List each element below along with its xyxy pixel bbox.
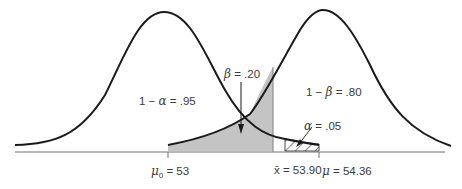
beta-symbol: β: [224, 67, 231, 81]
mu-symbol: μ: [151, 164, 159, 178]
mu-label: μ = 54.36: [322, 165, 372, 178]
alpha-value: = .05: [312, 120, 341, 132]
xbar-label: x̄ = 53.90: [274, 165, 322, 177]
alpha-symbol: α: [304, 119, 312, 133]
power-label: 1 − β = .80: [306, 86, 362, 99]
confidence-value: = .95: [167, 95, 196, 107]
alpha-label: α = .05: [304, 120, 341, 133]
power-value: = .80: [332, 86, 361, 98]
mu0-value: = 53: [163, 165, 189, 177]
confidence-prefix: 1 −: [139, 95, 159, 107]
xbar-value: = 53.90: [280, 164, 322, 176]
beta-label: β = .20: [224, 68, 260, 81]
alpha-symbol: α: [159, 94, 167, 108]
power-diagram: [0, 0, 462, 189]
confidence-label: 1 − α = .95: [139, 95, 196, 108]
mu-symbol: μ: [322, 164, 330, 178]
mu-value: = 54.36: [330, 165, 372, 177]
power-prefix: 1 −: [306, 86, 326, 98]
mu0-label: μ0 = 53: [151, 165, 189, 180]
beta-value: = .20: [231, 68, 260, 80]
